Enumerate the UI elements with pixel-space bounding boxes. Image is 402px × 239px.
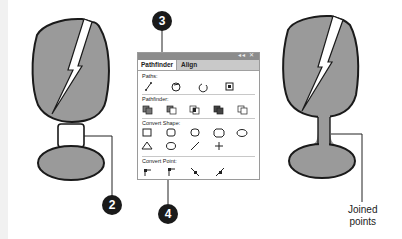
rounded-rectangle-icon[interactable] (167, 129, 175, 136)
minus-front-icon[interactable] (167, 106, 176, 114)
polygon-icon[interactable] (167, 143, 176, 150)
beveled-rectangle-icon[interactable] (191, 129, 199, 136)
panel-titlebar[interactable]: ◂◂ ✕ (138, 53, 259, 60)
section-label-pathfinder: Pathfinder: (142, 96, 169, 102)
intersect-icon[interactable] (190, 106, 199, 114)
callout-4: 4 (158, 204, 178, 224)
left-goblet (33, 19, 109, 180)
triangle-icon[interactable] (142, 142, 152, 149)
exclude-icon[interactable] (214, 106, 223, 114)
panel-collapse-close-controls[interactable]: ◂◂ ✕ (238, 51, 255, 58)
section-label-convert-point: Convert Point: (142, 158, 177, 164)
joined-points-line1: Joined (348, 204, 377, 216)
reverse-path-icon[interactable] (199, 84, 207, 92)
inverse-rounded-rectangle-icon[interactable] (214, 129, 224, 137)
right-goblet (283, 16, 358, 178)
unite-icon[interactable] (143, 106, 152, 114)
tab-align[interactable]: Align (178, 60, 200, 70)
symmetrical-point-icon[interactable] (216, 168, 224, 176)
joined-points-label: Joined points (348, 204, 377, 228)
outline-stroke-icon[interactable] (172, 83, 180, 91)
minus-back-icon[interactable] (238, 106, 247, 114)
plain-point-icon[interactable] (144, 169, 151, 176)
corner-point-icon[interactable] (168, 168, 175, 176)
tab-pathfinder[interactable]: Pathfinder (138, 60, 177, 70)
joined-points-line2: points (348, 216, 377, 228)
ellipse-icon[interactable] (237, 130, 247, 137)
separator (142, 118, 255, 119)
offset-path-icon[interactable] (226, 83, 233, 90)
orthogonal-line-icon[interactable] (215, 142, 223, 150)
pathfinder-panel: ◂◂ ✕ Pathfinder Align Paths: Pathfinder:… (137, 52, 260, 180)
join-path-icon[interactable] (145, 82, 152, 91)
panel-tabs: Pathfinder Align (138, 60, 259, 71)
separator (142, 94, 255, 95)
section-label-convert-shape: Convert Shape: (142, 120, 180, 126)
smooth-point-icon[interactable] (191, 168, 199, 176)
rectangle-icon[interactable] (143, 129, 151, 136)
separator (142, 156, 255, 157)
line-icon[interactable] (191, 142, 199, 150)
callout-2: 2 (102, 195, 122, 215)
callout-3: 3 (152, 11, 172, 31)
